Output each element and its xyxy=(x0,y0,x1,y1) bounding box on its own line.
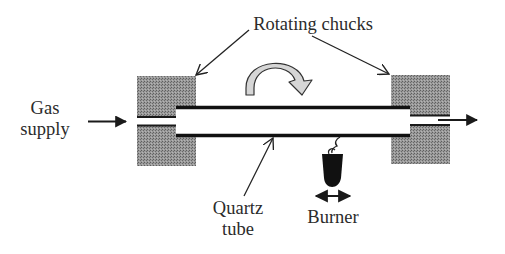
rotation-arrow-icon xyxy=(246,63,312,95)
quartz-tube-label-line1: Quartz xyxy=(198,198,278,219)
burner-icon xyxy=(322,137,343,187)
quartz-tube-pointer xyxy=(244,138,273,196)
chuck-pointer-left xyxy=(196,30,249,75)
cvd-lathe-diagram: Rotating chucks Gas supply Quartz tube B… xyxy=(0,0,505,254)
chuck-pointer-right xyxy=(312,36,389,74)
quartz-tube-label: Quartz tube xyxy=(198,198,278,240)
burner-label: Burner xyxy=(298,207,368,228)
gas-supply-label-line1: Gas xyxy=(10,98,80,119)
rotating-chucks-label: Rotating chucks xyxy=(218,14,408,35)
quartz-tube-label-line2: tube xyxy=(198,219,278,240)
quartz-tube xyxy=(176,108,410,136)
gas-supply-label-line2: supply xyxy=(10,119,80,140)
left-chuck xyxy=(137,76,196,166)
gas-supply-label: Gas supply xyxy=(10,98,80,140)
